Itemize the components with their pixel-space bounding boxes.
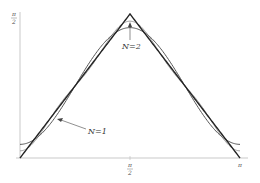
x-tick-pi: π	[237, 161, 243, 168]
svg-text:N=1: N=1	[87, 127, 107, 136]
annotation-n1: N=1	[57, 118, 107, 136]
annotation-n2: N=2	[121, 22, 141, 51]
svg-text:π: π	[11, 10, 17, 17]
svg-text:N=2: N=2	[121, 42, 141, 51]
x-tick-pi-over-2: π 2	[127, 161, 133, 176]
svg-text:2: 2	[11, 18, 16, 25]
chart: π 2 π 2 π N=2 N=1	[0, 0, 260, 183]
svg-text:2: 2	[127, 169, 132, 176]
series-n2	[20, 21, 240, 151]
svg-text:π: π	[127, 161, 133, 168]
y-tick-pi-over-2: π 2	[11, 10, 17, 25]
